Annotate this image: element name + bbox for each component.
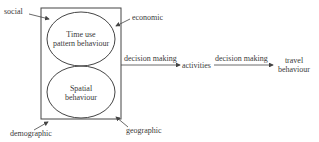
context-box <box>41 8 121 119</box>
decision-making-label-1: decision making <box>124 54 177 63</box>
economic-arrow <box>116 19 130 26</box>
spatial-label: Spatial behaviour <box>47 84 115 102</box>
decision-making-label-2: decision making <box>215 54 268 63</box>
economic-label: economic <box>132 13 163 22</box>
time-use-line2: pattern behaviour <box>47 39 115 48</box>
activities-node: activities <box>182 61 211 70</box>
social-arrow <box>29 14 49 19</box>
spatial-line2: behaviour <box>47 93 115 102</box>
travel-line2: behaviour <box>274 65 314 74</box>
time-use-line1: Time use <box>47 30 115 39</box>
travel-behaviour-node: travel behaviour <box>274 56 314 74</box>
spatial-line1: Spatial <box>47 84 115 93</box>
geographic-label: geographic <box>126 126 162 135</box>
demographic-label: demographic <box>10 129 52 138</box>
time-use-label: Time use pattern behaviour <box>47 30 115 48</box>
travel-line1: travel <box>274 56 314 65</box>
social-label: social <box>4 7 23 16</box>
